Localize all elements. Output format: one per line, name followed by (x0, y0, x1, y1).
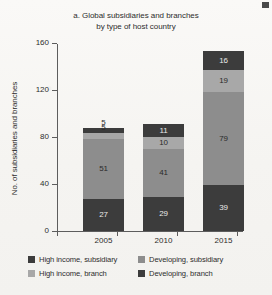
bar-segment[interactable]: 29 (143, 197, 184, 231)
bar-value-label: 79 (219, 135, 228, 143)
x-axis-tick (57, 232, 58, 236)
bar-group-2015[interactable]: 16197939 (203, 51, 244, 231)
bar-segment[interactable]: 16 (203, 51, 244, 70)
legend-label: Developing, branch (149, 269, 213, 278)
bar-value-label: 19 (219, 77, 228, 85)
legend-swatch-icon (138, 256, 145, 263)
y-axis-tick-label: 40 (40, 179, 49, 188)
legend-item[interactable]: Developing, branch (138, 269, 256, 278)
bar-value-label: 39 (219, 204, 228, 212)
bar-segment[interactable]: 19 (203, 70, 244, 92)
y-axis-tick-label: 160 (36, 38, 49, 47)
y-axis-tick: 120 (52, 90, 57, 91)
bar-value-label: 51 (99, 165, 108, 173)
bar-segment[interactable]: 39 (203, 185, 244, 231)
x-axis-label-2005: 2005 (74, 236, 134, 245)
y-axis-line (57, 44, 58, 232)
bar-group-2010[interactable]: 11104129 (143, 124, 184, 231)
bar-segment[interactable]: 11 (143, 124, 184, 137)
corner-print-mark (262, 2, 269, 8)
y-axis-tick-label: 120 (36, 85, 49, 94)
x-axis-label-2015: 2015 (194, 236, 254, 245)
bar-segment[interactable]: 10 (143, 137, 184, 149)
legend-label: High income, branch (39, 269, 107, 278)
y-axis-tick: 40 (52, 184, 57, 185)
legend-item[interactable]: Developing, subsidiary (138, 255, 256, 264)
bar-value-label: 27 (99, 211, 108, 219)
bar-value-label: 11 (159, 127, 167, 135)
y-axis-tick-label: 80 (40, 132, 49, 141)
y-axis-tick-label: 0 (45, 226, 49, 235)
chart-legend: High income, subsidiaryDeveloping, subsi… (28, 252, 256, 280)
legend-label: High income, subsidiary (39, 255, 117, 264)
x-axis-label-2010: 2010 (134, 236, 194, 245)
chart-title-line-2: by type of host country (22, 22, 250, 33)
legend-label: Developing, subsidiary (149, 255, 223, 264)
chart-title-line-1: a. Global subsidiaries and branches (73, 11, 198, 20)
bar-group-2005[interactable]: 555127 (83, 128, 124, 231)
legend-swatch-icon (138, 270, 145, 277)
bar-value-label: 16 (219, 57, 228, 65)
legend-swatch-icon (28, 256, 35, 263)
y-axis-title-label: No. of subsidiaries and branches (11, 81, 20, 194)
bar-segment[interactable]: 79 (203, 92, 244, 185)
bar-segment[interactable]: 51 (83, 139, 124, 199)
bar-value-label: 10 (159, 139, 168, 147)
bar-value-label: 5 (101, 124, 105, 132)
legend-item[interactable]: High income, subsidiary (28, 255, 138, 264)
bar-value-label: 41 (159, 169, 168, 177)
y-axis-title: No. of subsidiaries and branches (9, 44, 21, 232)
chart-title: a. Global subsidiaries and branches by t… (22, 11, 250, 32)
x-axis-line (57, 231, 243, 232)
y-axis-tick: 160 (52, 43, 57, 44)
bar-value-label: 29 (159, 210, 168, 218)
legend-swatch-icon (28, 270, 35, 277)
bar-segment[interactable]: 27 (83, 199, 124, 231)
plot-area: 04080120160 5551271110412916197939 (57, 44, 243, 232)
bar-segment[interactable]: 41 (143, 149, 184, 197)
y-axis-tick: 80 (52, 137, 57, 138)
figure-container: a. Global subsidiaries and branches by t… (0, 0, 272, 295)
legend-item[interactable]: High income, branch (28, 269, 138, 278)
